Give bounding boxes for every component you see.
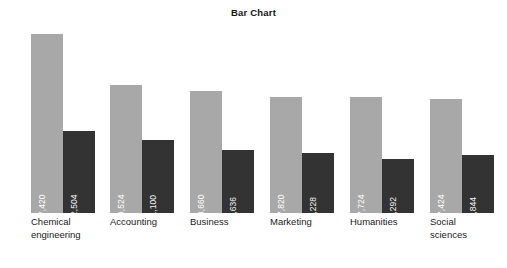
bar-value-label: $8,292 (388, 197, 398, 213)
plot-area: $27,420 $12,504 Chemical engineering $19… (0, 0, 507, 268)
bar-value-label: $19,524 (116, 195, 126, 213)
category-label: Humanities (350, 216, 428, 229)
category-label: Chemical engineering (31, 216, 109, 241)
bar-dark[interactable]: $9,636 (222, 150, 254, 213)
bar-value-label: $8,844 (468, 197, 478, 213)
bar-dark[interactable]: $9,228 (302, 153, 334, 213)
category-label: Business (190, 216, 268, 229)
bar-value-label: $9,228 (308, 197, 318, 213)
bar-light[interactable]: $17,724 (350, 97, 382, 213)
bar-chart: Bar Chart $27,420 $12,504 Chemical engin… (0, 0, 507, 268)
bar-value-label: $17,724 (356, 195, 366, 213)
bar-light[interactable]: $17,820 (270, 97, 302, 213)
bar-light[interactable]: $19,524 (110, 85, 142, 213)
bar-light[interactable]: $17,424 (430, 99, 462, 213)
bar-value-label: $18,660 (196, 195, 206, 213)
bar-dark[interactable]: $12,504 (63, 131, 95, 213)
bar-value-label: $27,420 (37, 195, 47, 213)
bar-light[interactable]: $18,660 (190, 91, 222, 213)
category-label: Accounting (110, 216, 188, 229)
bar-value-label: $17,424 (436, 195, 446, 213)
bar-dark[interactable]: $8,292 (382, 159, 414, 213)
category-label: Marketing (270, 216, 348, 229)
bar-dark[interactable]: $8,844 (462, 155, 494, 213)
bar-value-label: $11,100 (148, 195, 158, 213)
category-label: Social sciences (430, 216, 507, 241)
bar-dark[interactable]: $11,100 (142, 140, 174, 213)
bar-value-label: $9,636 (228, 197, 238, 213)
bar-light[interactable]: $27,420 (31, 34, 63, 213)
bar-value-label: $17,820 (276, 195, 286, 213)
bar-value-label: $12,504 (69, 195, 79, 213)
